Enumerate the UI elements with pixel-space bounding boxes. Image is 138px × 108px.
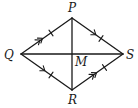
side-ps <box>72 18 123 54</box>
side-rq <box>21 54 72 90</box>
vertex-label-r: R <box>67 93 77 107</box>
side-qp <box>21 18 72 54</box>
tick-mark-icon <box>49 30 53 36</box>
vertex-label-s: S <box>126 48 134 62</box>
tick-mark-icon <box>99 36 103 42</box>
vertex-label-q: Q <box>4 48 14 62</box>
intersection-label-m: M <box>74 55 88 69</box>
vertex-label-p: P <box>67 1 77 15</box>
quadrilateral-diagram: P Q S R M <box>0 0 138 108</box>
double-arrow-icon <box>89 70 98 79</box>
tick-mark-icon <box>49 72 53 78</box>
